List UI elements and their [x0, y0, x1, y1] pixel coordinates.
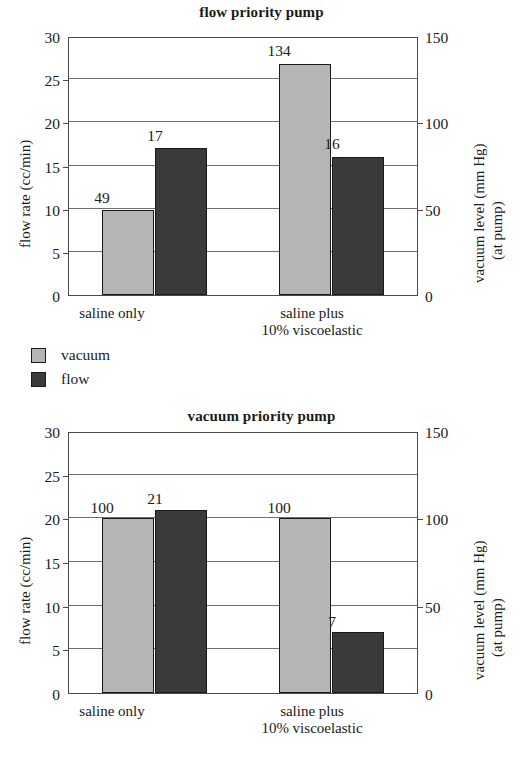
ytick-bottom-right-150: 150	[425, 425, 465, 441]
tickmark-bottom-left-5	[63, 650, 68, 651]
axis-title-bottom-left: flow rate (cc/min)	[18, 537, 34, 645]
ytick-top-left-20: 20	[26, 116, 60, 132]
tickmark-top-left-5	[63, 253, 68, 254]
axis-title-bottom-right-line2: (at pump)	[490, 598, 506, 657]
chart-flow-priority-pump: flow priority pump 30 25 20 15 10 5 0 15…	[0, 0, 523, 392]
ytick-bottom-left-5: 5	[26, 643, 60, 659]
bar-top-flow-saline-only	[155, 148, 207, 295]
barlabel-top-vacuum-saline-only: 49	[76, 190, 128, 206]
catlabel-bottom-saline-only: saline only	[60, 703, 164, 720]
tickmark-bottom-left-15	[63, 563, 68, 564]
tickmark-top-right-50	[418, 210, 423, 211]
axis-title-top-right-line1: vacuum level (mm Hg)	[472, 143, 488, 283]
catlabel-top-saline-plus-line1: saline plus	[232, 305, 392, 322]
ytick-top-left-0: 0	[26, 289, 60, 305]
bar-top-flow-saline-plus	[332, 157, 384, 295]
ytick-top-left-5: 5	[26, 246, 60, 262]
tickmark-top-left-25	[63, 80, 68, 81]
ytick-top-right-150: 150	[425, 30, 465, 46]
ytick-top-right-0: 0	[425, 289, 465, 305]
tickmark-top-right-100	[418, 123, 423, 124]
gridline-top-25	[69, 78, 417, 79]
axis-title-top-left: flow rate (cc/min)	[18, 140, 34, 248]
legend-label-flow: flow	[61, 371, 89, 387]
chart-title-bottom: vacuum priority pump	[0, 408, 523, 425]
barlabel-top-flow-saline-plus: 16	[306, 136, 358, 152]
chart-vacuum-priority-pump: vacuum priority pump 30 25 20 15 10 5 0 …	[0, 392, 523, 762]
ytick-top-right-100: 100	[425, 116, 465, 132]
ytick-bottom-right-0: 0	[425, 687, 465, 703]
tickmark-bottom-right-50	[418, 607, 423, 608]
bar-top-vacuum-saline-plus	[279, 64, 331, 295]
barlabel-bottom-vacuum-saline-plus: 100	[253, 500, 305, 516]
ytick-top-left-30: 30	[26, 30, 60, 46]
barlabel-top-flow-saline-only: 17	[129, 128, 181, 144]
plot-area-top	[68, 37, 418, 296]
catlabel-bottom-saline-plus-line1: saline plus	[232, 703, 392, 720]
tickmark-bottom-left-10	[63, 607, 68, 608]
legend-label-vacuum: vacuum	[61, 347, 110, 363]
ytick-bottom-right-50: 50	[425, 600, 465, 616]
bar-bottom-flow-saline-plus	[332, 632, 384, 693]
tickmark-bottom-left-25	[63, 476, 68, 477]
ytick-bottom-left-20: 20	[26, 512, 60, 528]
bar-bottom-flow-saline-only	[155, 510, 207, 693]
chart-legend: vacuum flow	[31, 343, 110, 391]
catlabel-top-saline-plus-line2: 10% viscoelastic	[232, 322, 392, 339]
ytick-bottom-left-25: 25	[26, 469, 60, 485]
chart-title-top: flow priority pump	[0, 4, 523, 21]
catlabel-top-saline-only: saline only	[60, 305, 164, 322]
catlabel-bottom-saline-plus-line2: 10% viscoelastic	[232, 720, 392, 737]
ytick-top-right-50: 50	[425, 203, 465, 219]
legend-item-flow: flow	[31, 367, 110, 391]
ytick-bottom-right-100: 100	[425, 512, 465, 528]
ytick-top-left-25: 25	[26, 73, 60, 89]
legend-item-vacuum: vacuum	[31, 343, 110, 367]
tickmark-top-left-20	[63, 123, 68, 124]
legend-swatch-flow-icon	[31, 372, 46, 387]
barlabel-top-vacuum-saline-plus: 134	[253, 43, 305, 59]
gridline-bottom-25	[69, 474, 417, 475]
barlabel-bottom-vacuum-saline-only: 100	[76, 500, 128, 516]
gridline-top-20	[69, 121, 417, 122]
bar-bottom-vacuum-saline-plus	[279, 518, 331, 693]
tickmark-bottom-right-100	[418, 519, 423, 520]
barlabel-bottom-flow-saline-plus: 7	[306, 614, 358, 630]
tickmark-top-left-10	[63, 210, 68, 211]
barlabel-bottom-flow-saline-only: 21	[129, 491, 181, 507]
axis-title-bottom-right-line1: vacuum level (mm Hg)	[472, 540, 488, 680]
ytick-bottom-left-30: 30	[26, 425, 60, 441]
plot-area-bottom	[68, 432, 418, 694]
legend-swatch-vacuum-icon	[31, 348, 46, 363]
bar-bottom-vacuum-saline-only	[102, 518, 154, 693]
bar-top-vacuum-saline-only	[102, 210, 154, 295]
tickmark-bottom-left-20	[63, 519, 68, 520]
axis-title-top-right-line2: (at pump)	[490, 201, 506, 260]
ytick-bottom-left-0: 0	[26, 687, 60, 703]
tickmark-top-left-15	[63, 167, 68, 168]
